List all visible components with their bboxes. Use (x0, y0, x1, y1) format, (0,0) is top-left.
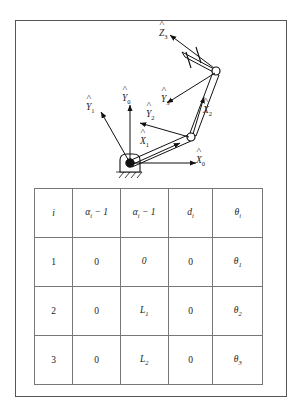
axis-Y2 (140, 123, 189, 137)
label-X1-subscript: 1 (146, 141, 149, 148)
label-Z3-axis: Z3 (159, 29, 168, 40)
cell-a-subscript: 1 (145, 310, 148, 317)
cell-alpha: 0 (73, 238, 121, 287)
label-X0-subscript: 0 (202, 160, 205, 167)
header-alpha-suffix: − 1 (92, 207, 108, 217)
cell-a: L1 (120, 287, 168, 336)
cell-d: 0 (168, 238, 213, 287)
axis-Y1 (101, 112, 130, 163)
label-Z3-symbol: Z (159, 28, 164, 38)
cell-index: 3 (35, 336, 73, 385)
label-X0-axis: X0 (196, 156, 205, 167)
cell-d: 0 (168, 336, 213, 385)
label-Y1-subscript: 1 (91, 107, 94, 114)
table-row: 1 0 0 0 θ1 (35, 238, 263, 287)
axis-X1 (131, 143, 180, 165)
label-Y3-symbol: Y (161, 94, 166, 104)
label-Y1-axis: Y1 (86, 103, 95, 114)
label-X2-symbol: X (203, 105, 209, 115)
header-d-subscript: i (192, 212, 194, 219)
dh-parameter-table: i αi − 1 αi − 1 di θi 1 0 0 0 θ1 2 0 L1 … (34, 188, 263, 385)
header-cell-alpha: αi − 1 (73, 189, 121, 238)
label-Y2-symbol: Y (146, 109, 151, 119)
cell-a-subscript: 2 (145, 359, 148, 366)
label-Y3-subscript: 3 (166, 99, 169, 106)
header-index-symbol: i (52, 208, 55, 218)
label-X2-subscript: 2 (209, 110, 212, 117)
cell-theta-subscript: 3 (238, 359, 241, 366)
label-Y2-axis: Y2 (146, 110, 155, 121)
figure-container: Y0 X0 Y1 X1 Y2 X2 Y3 Z3 i αi − 1 αi − 1 … (0, 0, 298, 414)
label-Y1-symbol: Y (86, 102, 91, 112)
header-cell-index: i (35, 189, 73, 238)
table-row: 2 0 L1 0 θ2 (35, 287, 263, 336)
header-cell-a: αi − 1 (120, 189, 168, 238)
cell-a: L2 (120, 336, 168, 385)
table-header-row: i αi − 1 αi − 1 di θi (35, 189, 263, 238)
cell-theta: θ2 (213, 287, 263, 336)
label-Y0-axis: Y0 (122, 94, 131, 105)
label-Y2-subscript: 2 (151, 114, 154, 121)
label-X1-symbol: X (140, 136, 146, 146)
cell-theta: θ1 (213, 238, 263, 287)
cell-alpha: 0 (73, 287, 121, 336)
label-Y0-symbol: Y (122, 93, 127, 103)
cell-index: 1 (35, 238, 73, 287)
table-row: 3 0 L2 0 θ3 (35, 336, 263, 385)
axis-Z3 (170, 35, 214, 68)
label-Y3-axis: Y3 (161, 95, 170, 106)
header-cell-d: di (168, 189, 213, 238)
cell-theta-subscript: 2 (238, 310, 241, 317)
label-X1-axis: X1 (140, 137, 149, 148)
header-a-suffix: − 1 (140, 207, 156, 217)
label-Z3-subscript: 3 (164, 33, 167, 40)
cell-a: 0 (120, 238, 168, 287)
cell-theta: θ3 (213, 336, 263, 385)
cell-a-symbol: 0 (142, 256, 147, 266)
ground-hatching (116, 172, 142, 178)
cell-theta-subscript: 1 (238, 261, 241, 268)
header-cell-theta: θi (213, 189, 263, 238)
cell-index: 2 (35, 287, 73, 336)
cell-alpha: 0 (73, 336, 121, 385)
label-Y0-subscript: 0 (127, 98, 130, 105)
label-X0-symbol: X (196, 155, 202, 165)
label-X2-axis: X2 (203, 106, 212, 117)
header-theta-subscript: i (239, 212, 241, 219)
cell-d: 0 (168, 287, 213, 336)
